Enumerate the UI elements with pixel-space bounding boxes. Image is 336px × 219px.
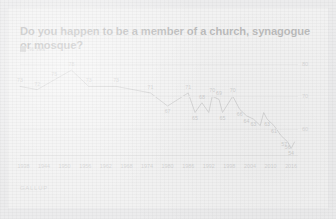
chart-card <box>8 8 328 208</box>
